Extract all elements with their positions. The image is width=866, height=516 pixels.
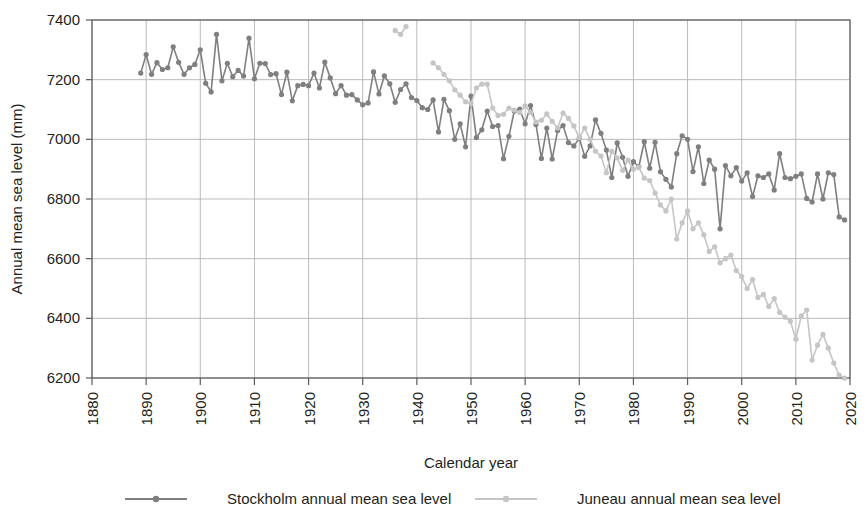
data-point (582, 154, 587, 159)
data-point (571, 143, 576, 148)
data-point (717, 260, 722, 265)
legend-item[interactable]: Juneau annual mean sea level (475, 490, 780, 507)
data-point (290, 98, 295, 103)
data-point (436, 65, 441, 70)
data-point (707, 249, 712, 254)
y-tick-labels: 7400720070006800660064006200 (47, 11, 80, 386)
x-tick-label: 1890 (138, 392, 155, 425)
data-point (214, 32, 219, 37)
y-tick-label: 7200 (47, 71, 80, 88)
x-axis-title: Calendar year (424, 454, 518, 471)
data-point (750, 277, 755, 282)
data-point (696, 144, 701, 149)
data-point (539, 156, 544, 161)
data-point (750, 194, 755, 199)
data-point (810, 199, 815, 204)
data-point (837, 214, 842, 219)
data-point (663, 177, 668, 182)
data-point (474, 85, 479, 90)
y-tick-label: 6800 (47, 190, 80, 207)
data-point (398, 32, 403, 37)
data-point (793, 337, 798, 342)
data-point (815, 171, 820, 176)
data-point (810, 358, 815, 363)
data-point (512, 108, 517, 113)
data-point (485, 82, 490, 87)
data-point (631, 167, 636, 172)
y-tick-label: 6400 (47, 309, 80, 326)
data-point (528, 110, 533, 115)
data-point (685, 137, 690, 142)
x-tick-label: 2000 (734, 392, 751, 425)
data-point (761, 175, 766, 180)
legend-item[interactable]: Stockholm annual mean sea level (125, 490, 451, 507)
data-point (593, 149, 598, 154)
data-point (539, 118, 544, 123)
data-point (701, 181, 706, 186)
data-point (544, 111, 549, 116)
data-point (609, 149, 614, 154)
data-point (393, 28, 398, 33)
data-point (598, 131, 603, 136)
data-point (447, 78, 452, 83)
data-point (219, 78, 224, 83)
data-point (831, 172, 836, 177)
data-point (268, 72, 273, 77)
data-point (241, 73, 246, 78)
data-point (273, 71, 278, 76)
x-tick-label: 1950 (463, 392, 480, 425)
y-tick-label: 6200 (47, 369, 80, 386)
data-point (804, 196, 809, 201)
data-point (826, 170, 831, 175)
data-point (371, 69, 376, 74)
data-point (458, 93, 463, 98)
data-point (642, 176, 647, 181)
data-point (837, 372, 842, 377)
data-point (154, 60, 159, 65)
data-point (203, 81, 208, 86)
data-point (571, 123, 576, 128)
data-point (138, 71, 143, 76)
chart-canvas: 7400720070006800660064006200 18801890190… (0, 0, 866, 516)
data-point (593, 117, 598, 122)
x-tick-label: 1920 (301, 392, 318, 425)
data-point (160, 67, 165, 72)
data-point (815, 343, 820, 348)
data-point (739, 274, 744, 279)
data-point (723, 163, 728, 168)
data-point (647, 178, 652, 183)
data-point (669, 196, 674, 201)
data-point (642, 139, 647, 144)
data-point (604, 170, 609, 175)
data-point (566, 116, 571, 121)
data-point (225, 61, 230, 66)
data-point (696, 220, 701, 225)
data-point (403, 81, 408, 86)
data-point (658, 202, 663, 207)
data-point (550, 156, 555, 161)
chart-legend: Stockholm annual mean sea levelJuneau an… (125, 490, 780, 507)
data-point (674, 236, 679, 241)
data-point (409, 95, 414, 100)
data-point (192, 62, 197, 67)
series-line (433, 63, 844, 378)
data-point (663, 208, 668, 213)
data-point (707, 158, 712, 163)
data-point (615, 155, 620, 160)
data-point (441, 97, 446, 102)
data-point (338, 83, 343, 88)
data-point (263, 61, 268, 66)
data-point (625, 158, 630, 163)
data-point (452, 87, 457, 92)
data-point (717, 226, 722, 231)
data-point (181, 72, 186, 77)
data-point (506, 105, 511, 110)
data-point (490, 105, 495, 110)
data-point (620, 155, 625, 160)
data-point (447, 108, 452, 113)
data-point (598, 153, 603, 158)
data-point (826, 346, 831, 351)
x-tick-label: 1960 (517, 392, 534, 425)
legend-marker-icon (503, 496, 509, 502)
data-point (528, 103, 533, 108)
